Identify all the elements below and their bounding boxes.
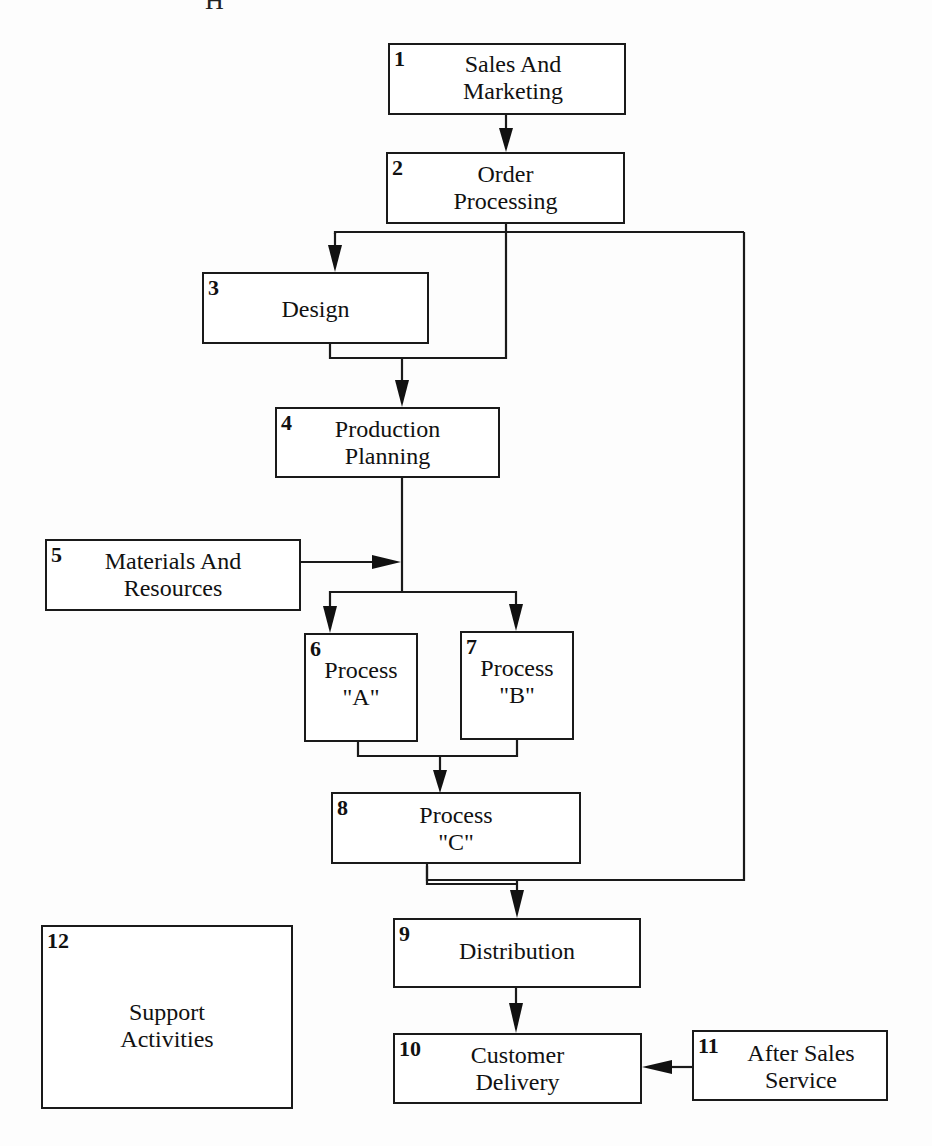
box-label: Support Activities: [43, 999, 291, 1053]
box-design: 3 Design: [202, 272, 429, 344]
box-sales-and-marketing: 1 Sales And Marketing: [388, 43, 626, 115]
box-support-activities: 12 Support Activities: [41, 925, 293, 1109]
arrow-8-to-9: [427, 863, 524, 918]
box-customer-delivery: 10 Customer Delivery: [393, 1033, 642, 1104]
box-process-b: 7 Process "B": [460, 631, 574, 740]
box-number: 12: [47, 929, 69, 953]
box-label: Process "C": [333, 802, 579, 856]
arrow-11-to-10: [642, 1060, 692, 1074]
box-label: Process "B": [462, 655, 572, 709]
box-label: Order Processing: [388, 161, 623, 215]
box-label: Distribution: [395, 938, 639, 965]
arrow-5-to-split: [300, 555, 401, 569]
box-label: After Sales Service: [694, 1040, 886, 1094]
arrows-6-7-to-8: [358, 740, 517, 793]
arrow-3-to-4: [395, 358, 409, 407]
box-materials-and-resources: 5 Materials And Resources: [45, 539, 301, 611]
flowchart-canvas: H: [0, 0, 932, 1146]
box-label: Production Planning: [277, 416, 498, 470]
box-label: Design: [204, 296, 427, 323]
box-production-planning: 4 Production Planning: [275, 407, 500, 478]
box-distribution: 9 Distribution: [393, 918, 641, 988]
arrow-2-to-3: [328, 222, 744, 272]
box-order-processing: 2 Order Processing: [386, 152, 625, 224]
box-after-sales-service: 11 After Sales Service: [692, 1030, 888, 1101]
box-label: Sales And Marketing: [390, 51, 624, 105]
box-process-a: 6 Process "A": [304, 633, 418, 742]
arrows-split-to-6-7: [323, 592, 523, 633]
arrow-1-to-2: [499, 113, 513, 152]
box-label: Process "A": [306, 657, 416, 711]
arrow-9-to-10: [509, 987, 523, 1033]
box-process-c: 8 Process "C": [331, 792, 581, 864]
box-label: Customer Delivery: [395, 1042, 640, 1096]
bypass-2-to-9: [427, 232, 744, 880]
box-label: Materials And Resources: [47, 548, 299, 602]
